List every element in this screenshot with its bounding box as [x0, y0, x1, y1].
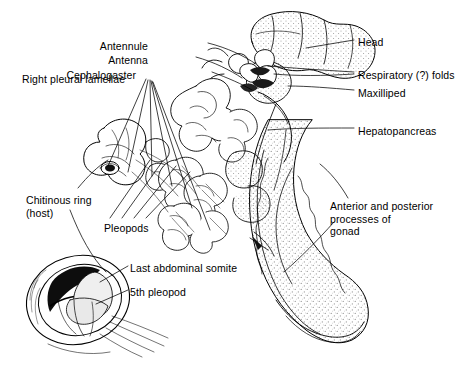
- anatomical-figure: AntennuleAntennaCephalogasterRight pleur…: [0, 0, 468, 367]
- label-head: Head: [358, 36, 418, 49]
- label-pleopods: Pleopods: [104, 222, 164, 235]
- label-respiratory-folds: Respiratory (?) folds: [358, 69, 468, 82]
- label-antennule: Antennule: [68, 40, 148, 53]
- label-hepatopancreas: Hepatopancreas: [358, 125, 452, 138]
- label-fifth-pleopod: 5th pleopod: [130, 286, 210, 299]
- label-last-abdominal-somite: Last abdominal somite: [130, 262, 250, 275]
- label-antenna: Antenna: [68, 54, 148, 67]
- label-right-pleural-lamellae: Right pleural lamellae: [22, 73, 146, 86]
- label-chitinous-ring: Chitinous ring (host): [26, 194, 116, 219]
- label-gonad-processes: Anterior and posterior processes of gona…: [330, 200, 452, 238]
- label-maxilliped: Maxilliped: [358, 87, 428, 100]
